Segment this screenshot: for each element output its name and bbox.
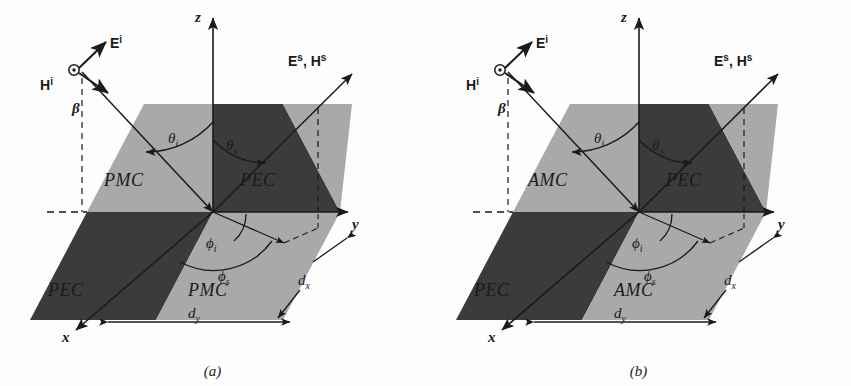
x-axis-label: x [61, 329, 70, 345]
quadrant-upper-left: PMC [87, 104, 213, 212]
incident-h-field-label: Hi [466, 76, 479, 93]
beta-label: β [71, 100, 80, 116]
z-axis-label: z [620, 9, 627, 25]
incident-h-field-label: Hi [40, 76, 53, 93]
y-axis-label: y [776, 216, 785, 232]
quadrant-label-upper-left: PMC [103, 170, 144, 190]
incident-h-field-arrow [505, 73, 534, 93]
y-axis-label: y [350, 216, 359, 232]
quadrant-label-lower-left: PEC [47, 280, 84, 300]
quadrant-label-lower-left: PEC [473, 280, 510, 300]
x-axis-label: x [487, 329, 496, 345]
panel-b: AMC PEC PEC AMC z y x [426, 0, 851, 386]
incident-e-field-arrow [505, 42, 532, 68]
quadrant-upper-left: AMC [513, 104, 639, 212]
z-axis-label: z [194, 9, 201, 25]
dx-label: dx [724, 272, 737, 291]
beta-label: β [497, 100, 506, 116]
incident-e-field-label: Ei [110, 34, 122, 51]
panel-a-caption: (a) [0, 363, 425, 380]
scattered-fields-label: Es, Hs [714, 52, 753, 69]
dx-label: dx [298, 272, 311, 291]
panel-b-caption: (b) [426, 363, 851, 380]
figure-root: PMC PEC PEC PMC z y [0, 0, 851, 386]
panel-a: PMC PEC PEC PMC z y [0, 0, 425, 386]
quadrant-label-upper-left: AMC [527, 170, 568, 190]
incident-e-field-arrow [79, 42, 106, 68]
incident-h-field-arrow [79, 73, 108, 93]
incident-e-field-label: Ei [536, 34, 548, 51]
scattered-fields-label: Es, Hs [288, 52, 327, 69]
out-of-page-dot-icon [72, 68, 75, 71]
out-of-page-dot-icon [498, 68, 501, 71]
